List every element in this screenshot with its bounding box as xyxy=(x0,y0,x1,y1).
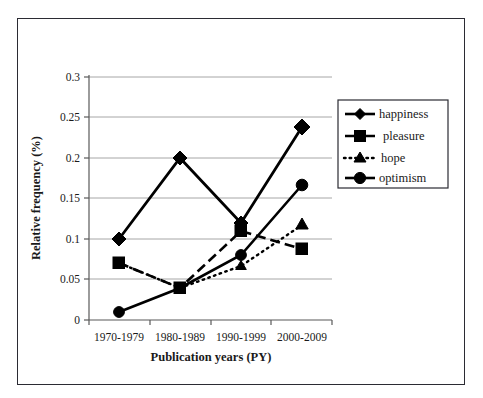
datapoint-optimism-1990-1999 xyxy=(236,250,247,261)
datapoint-optimism-2000-2009 xyxy=(296,179,308,191)
legend-label-happiness: happiness xyxy=(379,107,428,121)
circle-icon xyxy=(354,172,365,183)
y-tick-label-0: 0 xyxy=(74,314,80,326)
legend: happiness pleasure hope xyxy=(338,100,448,188)
series-optimism xyxy=(114,179,308,317)
datapoint-pleasure-2000-2009 xyxy=(296,243,308,255)
y-tick-label-0.15: 0.15 xyxy=(60,192,80,204)
datapoint-optimism-1970-1979 xyxy=(114,307,125,318)
y-tick-labels: 0.3 0.25 0.2 0.15 0.1 0.05 0 xyxy=(60,71,80,326)
x-tick-label-1980-1989: 1980-1989 xyxy=(155,331,205,343)
datapoint-pleasure-1970-1979 xyxy=(113,257,125,269)
datapoint-hope-2000-2009 xyxy=(296,218,308,229)
series-happiness xyxy=(112,119,310,246)
x-axis-title: Publication years (PY) xyxy=(151,350,272,364)
square-icon xyxy=(355,131,366,142)
series-hope xyxy=(119,218,308,292)
axes xyxy=(84,75,332,325)
legend-label-hope: hope xyxy=(381,151,406,165)
legend-label-optimism: optimism xyxy=(379,171,427,185)
x-tick-label-2000-2009: 2000-2009 xyxy=(277,331,327,343)
y-tick-label-0.1: 0.1 xyxy=(66,233,81,245)
datapoint-happiness-2000-2009 xyxy=(294,119,310,135)
datapoint-hope-1990-1999 xyxy=(236,261,247,270)
legend-item-optimism[interactable]: optimism xyxy=(345,171,427,185)
series-happiness-line xyxy=(119,127,302,239)
x-tick-label-1990-1999: 1990-1999 xyxy=(216,331,266,343)
line-chart: 0.3 0.25 0.2 0.15 0.1 0.05 0 1970-1979 1… xyxy=(0,0,483,398)
x-tick-label-1970-1979: 1970-1979 xyxy=(94,331,144,343)
y-tick-label-0.25: 0.25 xyxy=(60,111,80,123)
legend-label-pleasure: pleasure xyxy=(383,129,425,143)
datapoint-pleasure-1980-1989 xyxy=(174,282,186,294)
y-tick-label-0.05: 0.05 xyxy=(60,273,80,285)
y-tick-label-0.2: 0.2 xyxy=(66,152,81,164)
y-axis-title: Relative frequency (%) xyxy=(29,136,43,260)
x-tick-labels: 1970-1979 1980-1989 1990-1999 2000-2009 xyxy=(94,331,327,343)
chart-canvas: 0.3 0.25 0.2 0.15 0.1 0.05 0 1970-1979 1… xyxy=(0,0,483,398)
legend-item-pleasure[interactable]: pleasure xyxy=(345,129,425,143)
y-tick-label-0.3: 0.3 xyxy=(66,71,81,83)
series-pleasure xyxy=(113,225,308,294)
figure-root: 0.3 0.25 0.2 0.15 0.1 0.05 0 1970-1979 1… xyxy=(0,0,483,398)
